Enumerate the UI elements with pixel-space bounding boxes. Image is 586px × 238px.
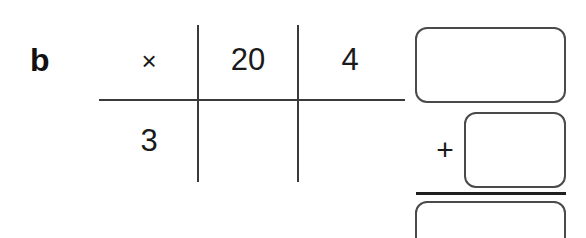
column-addition-area: + [0,0,586,238]
sum-horizontal-rule [416,192,566,195]
plus-icon: + [428,132,462,168]
answer-box-total[interactable] [415,201,566,238]
answer-box-partial-product-1[interactable] [415,27,566,103]
worksheet-canvas: b × 20 4 3 + [0,0,586,238]
answer-box-partial-product-2[interactable] [464,112,566,188]
